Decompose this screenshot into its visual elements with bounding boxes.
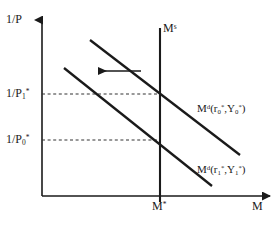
x-tick-label-mstar: M* (152, 200, 166, 212)
y-tick-label-p0: 1/P0* (6, 133, 29, 146)
x-axis-label: M (252, 200, 263, 212)
money-demand-curve-initial (90, 40, 240, 155)
money-demand-label-shifted: Md(r1*,Y1*) (197, 164, 246, 176)
y-tick-label-p1: 1/P1* (6, 87, 29, 100)
y-axis-label: 1/P (6, 13, 22, 25)
money-market-diagram: 1/P 1/P1* 1/P0* Ms Md(r0*,Y0*) Md(r1*,Y1… (0, 0, 278, 225)
money-supply-label: Ms (163, 22, 177, 34)
money-demand-curve-shifted (64, 68, 212, 186)
money-demand-label-initial: Md(r0*,Y0*) (197, 103, 246, 115)
